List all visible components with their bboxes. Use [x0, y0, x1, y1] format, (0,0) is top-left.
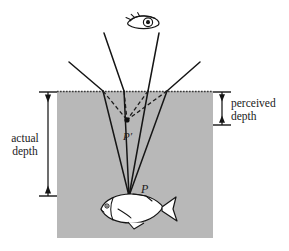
actual-depth-arrow-top	[45, 95, 51, 103]
perceived-depth-arrow-bottom	[219, 116, 225, 123]
eye-icon	[126, 13, 159, 29]
refraction-diagram	[0, 0, 289, 251]
refracted-ray-4	[167, 62, 200, 91]
point-p-label: P	[141, 183, 148, 196]
refracted-rays-above-water	[69, 33, 200, 91]
refracted-ray-1	[69, 62, 103, 91]
refracted-ray-2	[104, 33, 124, 91]
actual-depth-arrow-bottom	[45, 186, 51, 194]
actual-depth-label: actual depth	[4, 132, 46, 158]
refracted-ray-3	[148, 33, 159, 91]
figure-canvas: actual depth perceived depth P P′	[0, 0, 289, 251]
perceived-depth-measure	[213, 92, 231, 125]
perceived-depth-arrow-top	[219, 94, 225, 101]
image-point-marker	[124, 117, 129, 122]
eye-pupil	[146, 20, 150, 24]
fish-pupil	[106, 205, 108, 207]
point-p-prime-label: P′	[123, 130, 132, 142]
perceived-depth-label: perceived depth	[231, 97, 287, 123]
